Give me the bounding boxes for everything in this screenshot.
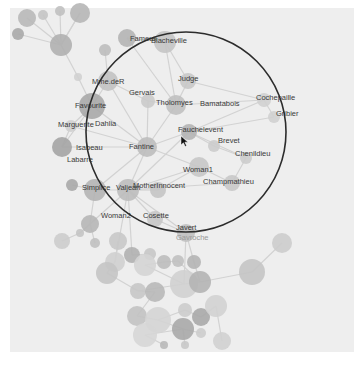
- node-label: Blacheville: [151, 36, 187, 45]
- node-label: Cochepaille: [256, 93, 295, 102]
- node-label: Brevet: [218, 136, 241, 145]
- graph-node[interactable]: [52, 137, 72, 157]
- graph-node[interactable]: [213, 332, 231, 350]
- node-label: Javert: [176, 223, 197, 232]
- node-label: Isabeau: [76, 143, 103, 152]
- graph-node[interactable]: [90, 238, 100, 248]
- node-label: Gavroche: [176, 233, 209, 242]
- node-label: Fantine: [129, 142, 154, 151]
- graph-node[interactable]: [76, 229, 84, 237]
- graph-node[interactable]: [130, 283, 146, 299]
- graph-node[interactable]: [196, 328, 206, 338]
- node-label: Simplice: [82, 183, 110, 192]
- graph-node[interactable]: [38, 10, 48, 20]
- graph-node[interactable]: [160, 341, 168, 349]
- graph-node[interactable]: [172, 255, 184, 267]
- node-label: Judge: [178, 74, 198, 83]
- graph-node[interactable]: [187, 255, 201, 269]
- graph-node[interactable]: [70, 3, 90, 23]
- graph-canvas[interactable]: [10, 8, 354, 352]
- graph-node[interactable]: [178, 303, 192, 317]
- node-label: Mme.deR: [92, 77, 125, 86]
- graph-node[interactable]: [189, 271, 211, 293]
- graph-node[interactable]: [50, 34, 72, 56]
- graph-node[interactable]: [145, 282, 165, 302]
- graph-node[interactable]: [109, 232, 127, 250]
- node-label: Chenildieu: [235, 149, 270, 158]
- graph-node[interactable]: [172, 318, 194, 340]
- node-label: Champmathieu: [203, 177, 254, 186]
- graph-node[interactable]: [12, 28, 24, 40]
- graph-node[interactable]: [134, 254, 156, 276]
- graph-node[interactable]: [272, 233, 292, 253]
- graph-node[interactable]: [205, 295, 227, 317]
- graph-node[interactable]: [157, 255, 171, 269]
- graph-node[interactable]: [66, 179, 78, 191]
- network-graph[interactable]: FameuilBlachevilleMme.deRJudgeGervaisCoc…: [0, 0, 364, 365]
- graph-node[interactable]: [133, 323, 157, 347]
- graph-node[interactable]: [54, 233, 70, 249]
- node-label: Gervais: [129, 88, 155, 97]
- node-label: Fauchelevent: [178, 125, 224, 134]
- graph-node[interactable]: [239, 259, 265, 285]
- graph-node[interactable]: [96, 262, 118, 284]
- graph-node[interactable]: [99, 44, 111, 56]
- node-label: MotherInnocent: [133, 181, 186, 190]
- graph-node[interactable]: [18, 9, 36, 27]
- node-label: Woman1: [183, 165, 213, 174]
- node-label: Bamatabois: [200, 99, 240, 108]
- node-label: Dahlia: [95, 119, 117, 128]
- node-label: Cosette: [143, 211, 169, 220]
- graph-node[interactable]: [55, 6, 65, 16]
- graph-node[interactable]: [81, 215, 99, 233]
- graph-node[interactable]: [181, 341, 189, 349]
- graph-node[interactable]: [127, 306, 147, 326]
- node-label: Gribier: [276, 109, 299, 118]
- graph-node[interactable]: [74, 73, 82, 81]
- node-label: Tholomyes: [156, 98, 193, 107]
- node-label: Marguerite: [58, 120, 94, 129]
